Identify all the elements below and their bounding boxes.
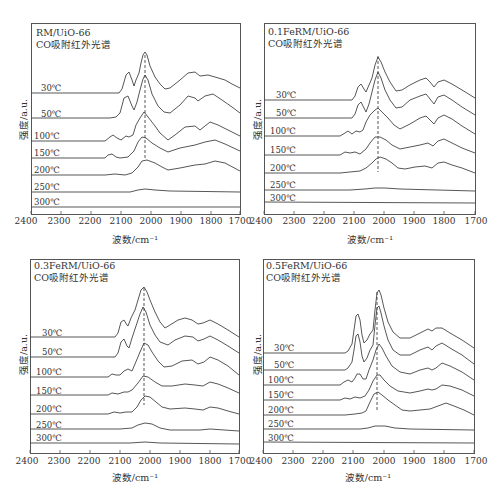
temp-label: 100℃ — [268, 375, 294, 385]
y-axis-label: 强度/a.u. — [250, 334, 264, 375]
panel-subtitle: CO吸附红外光谱 — [266, 272, 341, 284]
x-axis-label: 波数/cm⁻¹ — [345, 470, 391, 484]
panel-0.5ferm-uio66: 0.5FeRM/UiO-66 CO吸附红外光谱 30℃ 50℃ 100℃ 150… — [0, 0, 503, 496]
temp-label: 250℃ — [268, 419, 294, 429]
temp-label: 150℃ — [268, 390, 294, 400]
x-tick: 2300 — [282, 456, 305, 466]
x-tick: 2100 — [342, 456, 365, 466]
x-tick: 2400 — [250, 456, 273, 466]
x-tick: 1900 — [403, 456, 426, 466]
temp-label: 50℃ — [274, 360, 294, 370]
x-tick: 1700 — [465, 456, 488, 466]
temp-label: 200℃ — [268, 405, 294, 415]
x-tick: 1800 — [433, 456, 456, 466]
temp-label: 30℃ — [274, 343, 294, 353]
temp-label: 300℃ — [268, 433, 294, 443]
x-tick: 2200 — [312, 456, 335, 466]
spectra-plot — [0, 0, 503, 496]
x-tick: 2000 — [373, 456, 396, 466]
panel-title: 0.5FeRM/UiO-66 — [266, 260, 347, 272]
